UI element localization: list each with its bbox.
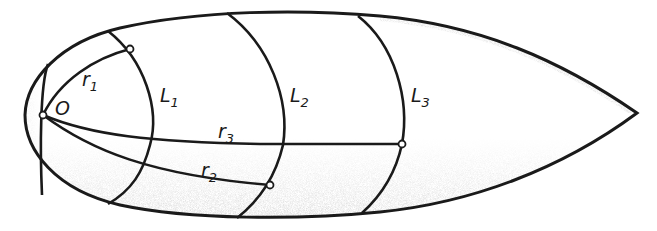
label-L3-sub: 3 <box>422 95 430 110</box>
label-L3: L3 <box>411 86 430 109</box>
label-r2-sub: 2 <box>209 170 217 185</box>
label-L2: L2 <box>290 86 309 109</box>
label-L1: L1 <box>160 86 179 109</box>
label-r2-base: r <box>201 159 209 181</box>
label-origin-text: O <box>55 97 70 119</box>
origin-point <box>40 112 47 119</box>
r2-endpoint <box>267 182 274 189</box>
label-r1-sub: 1 <box>90 79 98 94</box>
label-origin: O <box>55 99 70 118</box>
label-r2: r2 <box>201 161 217 184</box>
label-L1-sub: 1 <box>171 95 179 110</box>
r1-endpoint <box>127 46 134 53</box>
label-r3-sub: 3 <box>226 131 234 146</box>
label-r3: r3 <box>218 122 234 145</box>
label-r1-base: r <box>82 68 90 90</box>
label-L3-base: L <box>411 84 422 106</box>
r3-endpoint <box>399 141 406 148</box>
diagram-canvas <box>0 0 657 231</box>
label-L1-base: L <box>160 84 171 106</box>
label-L2-base: L <box>290 84 301 106</box>
label-L2-sub: 2 <box>301 95 309 110</box>
label-r3-base: r <box>218 120 226 142</box>
label-r1: r1 <box>82 70 98 93</box>
